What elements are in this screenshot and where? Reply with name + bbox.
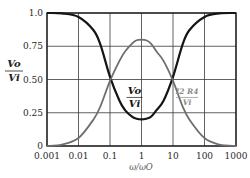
x-tick-label: 0.001 <box>34 151 60 161</box>
y-tick-label: 0.25 <box>23 108 43 118</box>
y-tick-label: 0.50 <box>23 75 43 85</box>
x-tick-label: 1000 <box>225 151 248 161</box>
annotation-numerator: I2 R4 <box>175 87 199 96</box>
y-axis-label-denominator: Vi <box>8 72 20 83</box>
annotations: VoViI2 R4Vi <box>127 85 199 109</box>
y-tick-label: 0 <box>37 141 43 151</box>
annotation-i2r4-vi: I2 R4Vi <box>175 87 199 107</box>
grid <box>47 13 236 146</box>
x-axis-label: ω/ωO <box>129 162 153 172</box>
x-axis-ticks: 0.0010.010.11101001000 <box>34 151 248 161</box>
annotation-denominator: Vi <box>183 98 192 107</box>
annotation-denominator: Vi <box>129 98 141 109</box>
x-tick-label: 0.1 <box>103 151 117 161</box>
x-tick-label: 10 <box>167 151 179 161</box>
y-tick-label: 1.0 <box>29 8 44 18</box>
y-axis-ticks: 00.250.500.751.0 <box>23 8 43 151</box>
y-tick-label: 0.75 <box>23 41 43 51</box>
y-axis-label-numerator: Vo <box>7 58 21 69</box>
annotation-vo-vi: VoVi <box>127 85 143 109</box>
x-tick-label: 0.01 <box>68 151 88 161</box>
x-tick-label: 100 <box>196 151 213 161</box>
chart: 00.250.500.751.0 0.0010.010.11101001000 … <box>0 0 250 178</box>
y-axis-label: Vo Vi <box>5 58 23 83</box>
annotation-numerator: Vo <box>128 85 142 96</box>
x-tick-label: 1 <box>139 151 145 161</box>
